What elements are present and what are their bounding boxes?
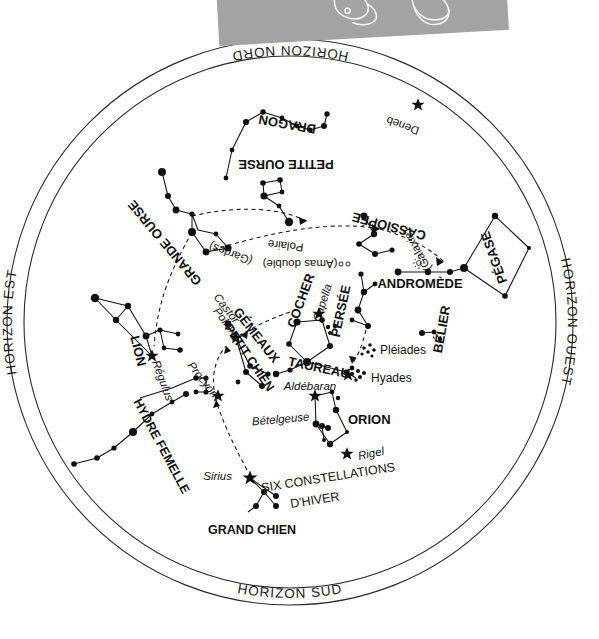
star-label-rigel: Rigel [357,445,386,462]
annotation-six-constellations-line1: SIX CONSTELLATIONS [260,460,396,495]
cluster-label-hyades: Hyades [371,371,412,385]
cluster-label-pleiades: Pléiades [380,343,426,357]
constellation-label-dragon: DRAGON [257,112,317,137]
line-persee [352,274,368,326]
star-glyph-rigel [340,447,353,459]
horizon-label-east: HORIZON EST [0,268,20,376]
line-orion [315,392,347,444]
constellation-label-hydre-femelle: HYDRE FEMELLE [131,396,193,496]
star-label-betelgeuse: Bételgeuse [251,411,309,428]
constellation-label-pegase: PÉGASE [477,229,510,285]
horizon-label-south: HORIZON SUD [236,581,343,601]
star-chart-planisphere: HORIZON NORD HORIZON SUD HORIZON EST HOR… [0,0,599,639]
star-label-polaire: Polaire [267,238,304,254]
star-label-regulus: Régulus [150,359,176,403]
star-label-deneb: Deneb [385,114,421,137]
annotation-six-constellations-line2: D'HIVER [289,489,340,511]
constellation-label-belier: BÉLIER [430,304,453,354]
constellation-label-grand-chien: GRAND CHIEN [208,523,296,537]
star-label-sirius: Sirius [203,470,232,482]
star-label-capella: Capella [310,282,333,323]
constellation-label-taureau: TAUREAU [287,354,351,382]
constellation-label-grande-ourse: GRANDE OURSE [124,197,204,288]
line-lion [95,298,128,320]
horizon-label-north: HORIZON NORD [230,43,349,64]
star-glyph-deneb [411,98,424,110]
constellation-label-andromede: ANDROMÈDE [377,276,463,291]
star-label-aldebaran: Aldébaran [283,380,336,392]
line-petite-ourse [263,180,289,222]
constellation-label-orion: ORION [348,412,391,427]
pointer-procyon-gemeaux [214,346,227,390]
horizon-label-west: HORIZON OUEST [558,257,580,388]
constellation-label-petite-ourse: PETITE OURSE [238,157,334,172]
pointer-sirius-procyon [216,400,247,470]
annotation-amas-double: (Amas double) [262,258,337,270]
